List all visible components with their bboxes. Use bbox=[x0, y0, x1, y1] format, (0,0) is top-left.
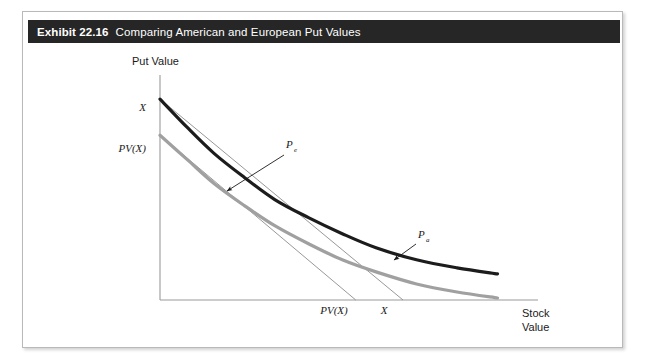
european-put-label: P bbox=[285, 138, 293, 150]
x-axis-title-line1: Stock bbox=[522, 307, 550, 319]
american-put-curve bbox=[160, 99, 498, 274]
exhibit-caption: Comparing American and European Put Valu… bbox=[116, 26, 361, 38]
put-value-chart: Put Value Stock Value X PV(X) PV(X) X P … bbox=[22, 43, 623, 348]
x-tick-label-x: X bbox=[380, 304, 389, 316]
american-put-label-subscript: a bbox=[426, 236, 430, 244]
exhibit-label: Exhibit 22.16 bbox=[37, 26, 109, 38]
y-axis-title: Put Value bbox=[132, 55, 179, 67]
european-put-curve bbox=[160, 135, 498, 298]
chart-area: Put Value Stock Value X PV(X) PV(X) X P … bbox=[22, 43, 623, 348]
european-put-label-subscript: e bbox=[294, 146, 297, 154]
y-tick-label-pvx: PV(X) bbox=[118, 142, 147, 155]
x-axis-title-line2: Value bbox=[522, 321, 549, 333]
american-put-label: P bbox=[417, 228, 425, 240]
exhibit-header: Exhibit 22.16 Comparing American and Eur… bbox=[28, 20, 620, 43]
x-tick-label-pvx: PV(X) bbox=[319, 304, 348, 317]
y-tick-label-x: X bbox=[138, 101, 147, 113]
